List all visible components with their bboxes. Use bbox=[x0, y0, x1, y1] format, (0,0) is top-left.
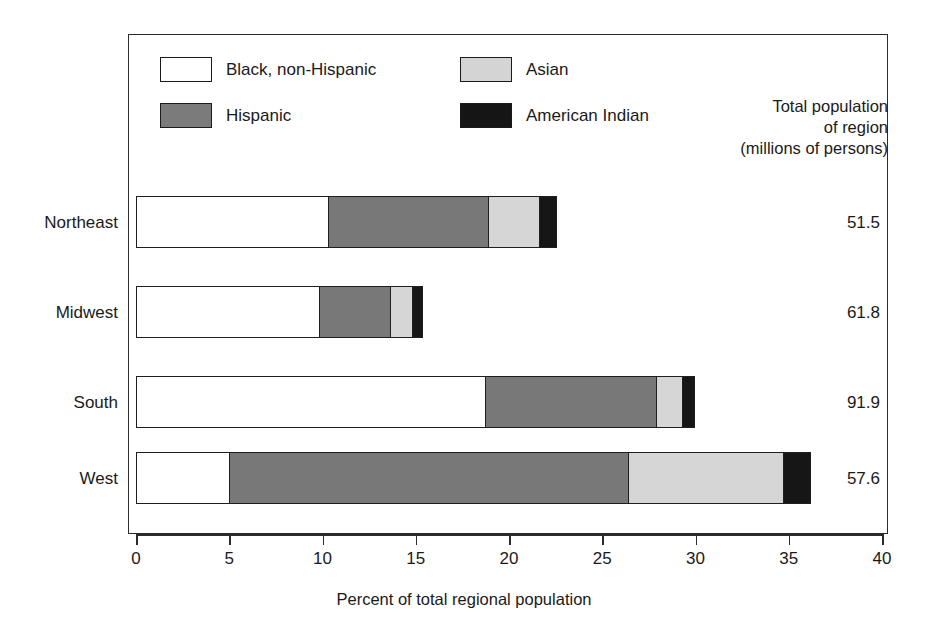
stacked-bar-chart: Black, non-Hispanic Asian Hispanic Ameri… bbox=[0, 0, 928, 643]
x-tick-label-15: 15 bbox=[406, 549, 425, 569]
stacked-bar-midwest[interactable] bbox=[136, 286, 423, 338]
bar-segment-hispanic[interactable] bbox=[229, 452, 628, 504]
legend-label-hispanic: Hispanic bbox=[226, 107, 291, 124]
totals-header-line-2: of region bbox=[638, 117, 888, 138]
x-tick-label-40: 40 bbox=[873, 549, 892, 569]
total-population-value-midwest: 61.8 bbox=[790, 303, 880, 323]
category-label-west: West bbox=[0, 469, 118, 489]
bar-segment-american-indian[interactable] bbox=[412, 286, 423, 338]
x-tick-10 bbox=[323, 534, 325, 545]
total-population-value-northeast: 51.5 bbox=[790, 213, 880, 233]
total-population-value-south: 91.9 bbox=[790, 393, 880, 413]
bar-segment-hispanic[interactable] bbox=[328, 196, 488, 248]
x-tick-5 bbox=[229, 534, 231, 545]
totals-header-line-1: Total population bbox=[638, 96, 888, 117]
bar-row: South91.9 bbox=[0, 376, 928, 428]
x-tick-40 bbox=[882, 534, 884, 545]
bar-segment-asian[interactable] bbox=[390, 286, 412, 338]
chart-legend: Black, non-Hispanic Asian Hispanic Ameri… bbox=[160, 56, 720, 142]
bar-segment-black-non-hispanic[interactable] bbox=[136, 376, 485, 428]
legend-item-american-indian: American Indian bbox=[460, 103, 649, 128]
bar-row: West57.6 bbox=[0, 452, 928, 504]
stacked-bar-south[interactable] bbox=[136, 376, 695, 428]
category-label-midwest: Midwest bbox=[0, 303, 118, 323]
legend-swatch-black bbox=[460, 103, 512, 128]
legend-swatch-light-gray bbox=[460, 57, 512, 82]
bar-segment-american-indian[interactable] bbox=[539, 196, 558, 248]
x-axis-label: Percent of total regional population bbox=[0, 590, 928, 609]
x-tick-label-25: 25 bbox=[593, 549, 612, 569]
legend-item-asian: Asian bbox=[460, 57, 569, 82]
stacked-bar-west[interactable] bbox=[136, 452, 811, 504]
bar-row: Midwest61.8 bbox=[0, 286, 928, 338]
bar-segment-hispanic[interactable] bbox=[485, 376, 657, 428]
legend-swatch-white bbox=[160, 57, 212, 82]
x-tick-0 bbox=[136, 534, 138, 545]
x-tick-35 bbox=[789, 534, 791, 545]
bar-row: Northeast51.5 bbox=[0, 196, 928, 248]
x-tick-label-35: 35 bbox=[779, 549, 798, 569]
bar-segment-black-non-hispanic[interactable] bbox=[136, 452, 229, 504]
legend-swatch-mid-gray bbox=[160, 103, 212, 128]
x-tick-20 bbox=[509, 534, 511, 545]
bar-segment-asian[interactable] bbox=[628, 452, 783, 504]
totals-header-line-3: (millions of persons) bbox=[638, 138, 888, 159]
category-label-south: South bbox=[0, 393, 118, 413]
legend-label-american-indian: American Indian bbox=[526, 107, 649, 124]
bar-segment-asian[interactable] bbox=[656, 376, 682, 428]
x-tick-label-20: 20 bbox=[500, 549, 519, 569]
bar-segment-asian[interactable] bbox=[488, 196, 538, 248]
total-population-value-west: 57.6 bbox=[790, 469, 880, 489]
legend-label-black-non-hispanic: Black, non-Hispanic bbox=[226, 61, 376, 78]
x-tick-label-10: 10 bbox=[313, 549, 332, 569]
category-label-northeast: Northeast bbox=[0, 213, 118, 233]
x-tick-label-30: 30 bbox=[686, 549, 705, 569]
x-tick-30 bbox=[696, 534, 698, 545]
bar-segment-hispanic[interactable] bbox=[319, 286, 390, 338]
totals-column-header: Total population of region (millions of … bbox=[638, 96, 888, 159]
bar-segment-american-indian[interactable] bbox=[682, 376, 695, 428]
x-tick-25 bbox=[602, 534, 604, 545]
stacked-bar-northeast[interactable] bbox=[136, 196, 557, 248]
legend-item-hispanic: Hispanic bbox=[160, 103, 291, 128]
legend-item-black-non-hispanic: Black, non-Hispanic bbox=[160, 57, 376, 82]
x-tick-label-0: 0 bbox=[131, 549, 140, 569]
x-tick-label-5: 5 bbox=[225, 549, 234, 569]
legend-label-asian: Asian bbox=[526, 61, 569, 78]
bar-segment-black-non-hispanic[interactable] bbox=[136, 196, 328, 248]
x-tick-15 bbox=[416, 534, 418, 545]
bar-segment-black-non-hispanic[interactable] bbox=[136, 286, 319, 338]
